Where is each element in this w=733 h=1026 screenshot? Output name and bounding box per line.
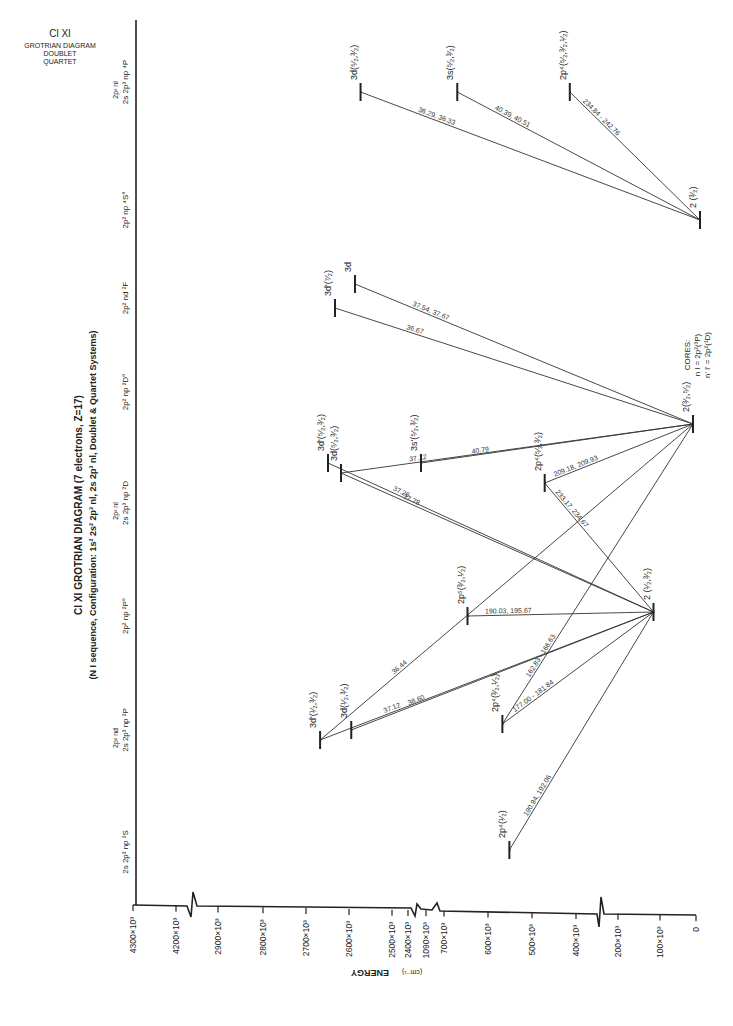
transition-wavelength-label: 234.84 - 242.76	[582, 97, 622, 136]
transition-line	[355, 284, 693, 424]
energy-level-label: 3d(¹⁄₂,³⁄₂)	[339, 684, 349, 719]
column-label-2Po: 2p² np ²P°	[121, 598, 130, 634]
energy-tick-label: 500×10³	[527, 924, 537, 956]
column-label-text: 2p² nd ²F	[121, 282, 130, 315]
energy-tick-label: 2400×10³	[403, 922, 413, 958]
transition-line	[421, 424, 693, 463]
column-label-text: 2p² np ⁴S°	[121, 192, 130, 229]
energy-tick-label: 1090×10³	[421, 922, 431, 958]
energy-level-label: 2p⁴(¹⁄₂)	[497, 810, 507, 838]
column-label-2F: 2p² nd ²F	[121, 282, 130, 315]
column-label-text: 2p² np ²D°	[121, 374, 130, 411]
column-label-text: 2s 2p³ np ²S	[121, 830, 130, 874]
energy-axis-title: ENERGY (cm⁻¹)	[351, 968, 422, 978]
transition-wavelength-label: 36.67	[406, 323, 425, 335]
transition-line	[328, 463, 654, 612]
energy-axis-unit: (cm⁻¹)	[402, 968, 422, 976]
column-label-2S: 2s 2p³ np ²S	[121, 830, 130, 874]
column-label-text: 2s 2p³ np ²P	[121, 708, 130, 752]
transitions: 36.29, 36.3340.39, 40.51234.84 - 242.763…	[320, 92, 700, 850]
column-label-2D: 2s 2p³ np ²D2p² nl	[112, 481, 130, 525]
transition-line	[545, 483, 654, 612]
transition-line	[341, 473, 653, 612]
transition-wavelength-label: 190.94, 192.06	[522, 773, 552, 817]
cores-line-2: n l = 2p²(³P)	[693, 333, 702, 376]
energy-tick-label: 4200×10³	[171, 918, 181, 954]
column-label-top: 2p² nl	[112, 81, 120, 99]
energy-axis-tick-labels: 4300×10³4200×10³2900×10³2800×10³2700×10³…	[128, 917, 701, 959]
transition-line	[457, 92, 700, 220]
column-labels: 2s 2p³ np ⁴P2p² nl2p² np ⁴S°2p² nd ²F2p²…	[112, 60, 130, 874]
transition-line	[509, 612, 653, 850]
transition-wavelength-label: 37.54, 37.67	[412, 300, 451, 321]
energy-level-label: 2p⁴(³⁄₂,¹⁄₂)	[490, 674, 500, 712]
energy-tick-label: 4300×10³	[128, 917, 138, 953]
energy-tick-label: 200×10³	[613, 926, 623, 958]
transition-line	[570, 92, 700, 220]
energy-level-label: 3d'(¹⁄₂,³⁄₂)	[308, 692, 318, 728]
energy-level-label: 2 (³⁄₂)	[688, 187, 698, 209]
corner-title-line-1: Cl XI	[49, 28, 71, 39]
energy-level-label: 3d'(⁵⁄₂,³⁄₂)	[316, 414, 326, 451]
column-label-2Do: 2p² np ²D°	[121, 374, 130, 411]
energy-level-label: 2p⁵(³⁄₂,¹⁄₂)	[456, 566, 466, 604]
energy-tick-label: 2800×10³	[258, 919, 268, 955]
energy-axis-label: ENERGY	[351, 968, 389, 978]
corner-title-line-2: GROTRIAN DIAGRAM	[24, 42, 96, 49]
energy-tick-label: 2900×10³	[213, 918, 223, 954]
energy-level-label: 2p⁴(⁵⁄₂,³⁄₂)	[533, 432, 543, 471]
transition-wavelength-label: 190.03, 195.67	[485, 607, 532, 615]
corner-title: Cl XI GROTRIAN DIAGRAM DOUBLET QUARTET	[24, 28, 96, 66]
transition-line	[502, 424, 693, 724]
transition-wavelength-label: 233.17, 234.67	[554, 488, 590, 528]
column-label-text: 2s 2p³ np ²D	[121, 481, 130, 525]
transition-line	[361, 92, 700, 220]
cores-line-3: n' l' = 2p²(¹D)	[703, 332, 712, 378]
energy-tick-label: 700×10³	[439, 922, 449, 954]
cores-note: CORES: n l = 2p²(³P) n' l' = 2p²(¹D)	[683, 332, 712, 378]
energy-level-label: 3d(⁵⁄₂,³⁄₂)	[329, 426, 339, 461]
energy-level-label: 3s'(⁵⁄₂,³⁄₂)	[409, 415, 419, 451]
column-label-4So: 2p² np ⁴S°	[121, 192, 130, 229]
column-label-text: 2s 2p³ np ⁴P	[121, 60, 130, 104]
transition-line	[335, 308, 693, 424]
energy-tick-label: 600×10³	[483, 923, 493, 955]
energy-tick-label: 2500×10³	[387, 922, 397, 958]
energy-level-label: 3d	[343, 262, 353, 272]
energy-tick-label: 400×10³	[571, 925, 581, 957]
title-text: Cl XI GROTRIAN DIAGRAM (7 electrons, Z=1…	[73, 395, 84, 615]
transition-wavelength-label: 209.18, 209.93	[553, 454, 599, 478]
energy-level-label: 2p⁴(⁵⁄₂,³⁄₂,¹⁄₂)	[558, 30, 568, 80]
transition-line	[320, 424, 693, 740]
corner-title-line-4: QUARTET	[43, 58, 77, 66]
transition-line	[545, 424, 693, 483]
energy-level-label: 3d(⁵⁄₂,³⁄₂)	[349, 45, 359, 80]
cores-line-1: CORES:	[683, 340, 692, 371]
corner-title-line-3: DOUBLET	[43, 50, 77, 57]
column-label-2P: 2s 2p³ np ²P2p² nd	[112, 708, 130, 752]
column-label-4P: 2s 2p³ np ⁴P2p² nl	[112, 60, 130, 104]
energy-tick-label: 2600×10³	[344, 921, 354, 957]
main-title: Cl XI GROTRIAN DIAGRAM (7 electrons, Z=1…	[73, 330, 98, 679]
column-label-top: 2p² nd	[112, 728, 120, 748]
energy-tick-label: 2700×10³	[301, 920, 311, 956]
column-label-text: 2p² np ²P°	[121, 598, 130, 634]
energy-level-label: 2(³⁄₂,⁵⁄₂)	[681, 382, 691, 412]
column-label-top: 2p² nl	[112, 502, 120, 520]
transition-line	[502, 612, 653, 724]
energy-tick-label: 100×10³	[655, 926, 665, 958]
energy-level-label: 3s(⁵⁄₂,³⁄₂)	[445, 45, 455, 80]
energy-level-label: 2 (¹⁄₂,³⁄₂)	[642, 568, 652, 600]
energy-level-label: 3d'(⁷⁄₂)	[323, 270, 333, 296]
transition-wavelength-label: 40.39, 40.51	[494, 104, 532, 128]
transition-wavelength-label: 177.00 - 181.84	[511, 678, 555, 713]
energy-tick-label: 0	[691, 927, 701, 932]
grotrian-diagram: Cl XI GROTRIAN DIAGRAM DOUBLET QUARTET C…	[0, 0, 733, 1026]
subtitle-text: (N I sequence, Configuration: 1s² 2s² 2p…	[88, 330, 98, 679]
